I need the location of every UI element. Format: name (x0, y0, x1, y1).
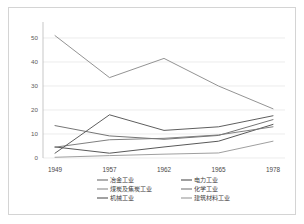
y-tick-label: 40 (31, 58, 38, 65)
y-tick-label: 50 (31, 34, 38, 41)
gridlines-group (43, 22, 285, 158)
x-tick-label: 1962 (157, 166, 172, 173)
chart-frame: 01020304050 19491957196219651978 冶金工业电力工… (8, 7, 296, 215)
x-axis-tick-labels: 19491957196219651978 (48, 166, 281, 173)
y-tick-label: 0 (35, 154, 39, 161)
x-tick-label: 1957 (102, 166, 117, 173)
series-line-2 (55, 36, 273, 109)
x-tick-label: 1949 (48, 166, 63, 173)
chart-plot-area: 01020304050 19491957196219651978 冶金工业电力工… (9, 8, 295, 214)
y-tick-label: 20 (31, 106, 38, 113)
y-tick-label: 30 (31, 82, 38, 89)
legend-label-4: 机械工业 (110, 194, 134, 202)
series-line-5 (55, 141, 273, 157)
legend-label-1: 电力工业 (194, 176, 218, 184)
legend-label-5: 建筑材料工业 (194, 194, 230, 202)
legend-label-0: 冶金工业 (110, 176, 134, 184)
legend-label-3: 化学工业 (194, 185, 218, 193)
y-axis-tick-labels: 01020304050 (31, 34, 38, 161)
data-series-group (55, 36, 273, 158)
x-tick-label: 1965 (211, 166, 226, 173)
chart-legend: 冶金工业电力工业煤炭及焦炭工业化学工业机械工业建筑材料工业 (97, 176, 230, 202)
legend-label-2: 煤炭及焦炭工业 (110, 185, 152, 193)
line-chart-svg: 01020304050 19491957196219651978 冶金工业电力工… (9, 8, 295, 214)
x-tick-label: 1978 (266, 166, 281, 173)
y-tick-label: 10 (31, 130, 38, 137)
